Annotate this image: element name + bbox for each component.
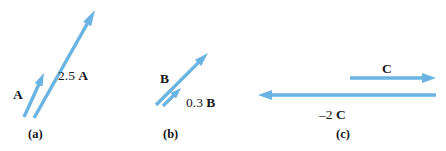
arrow-head — [422, 73, 436, 83]
vector-label-b-2: 0.3 B — [186, 96, 215, 110]
panel-caption-c: (c) — [336, 128, 350, 141]
vector-scaling-figure: A2.5 A(a)B0.3 B(b)C–2 C(c) — [0, 0, 446, 151]
arrow-layer — [24, 10, 436, 118]
vector-label-a-2: 2.5 A — [58, 69, 88, 83]
vector-arrow-c-2 — [258, 90, 436, 100]
vector-label-c-2: –2 C — [319, 108, 346, 122]
vector-label-a-1: A — [13, 88, 23, 102]
vector-arrow-a-2 — [34, 10, 95, 118]
arrow-head — [258, 90, 272, 100]
vector-arrow-c-1 — [350, 73, 436, 83]
arrow-head — [35, 73, 44, 87]
panel-caption-a: (a) — [28, 128, 43, 141]
vector-label-b-1: B — [160, 72, 169, 86]
arrow-head — [83, 10, 95, 26]
vector-arrow-a-1 — [24, 73, 44, 117]
vector-label-c-1: C — [382, 62, 392, 76]
panel-caption-b: (b) — [163, 128, 178, 141]
